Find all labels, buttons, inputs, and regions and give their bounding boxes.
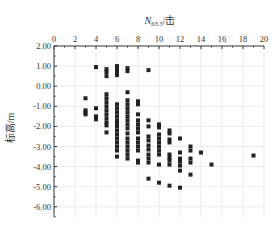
y-tick-label: 1.00 bbox=[36, 61, 51, 71]
x-axis-title-subscript: 63.5 bbox=[151, 20, 163, 27]
data-point bbox=[115, 149, 119, 153]
data-point bbox=[105, 92, 109, 96]
data-point bbox=[126, 102, 130, 106]
x-tick-label: 12 bbox=[176, 34, 185, 44]
data-point bbox=[157, 140, 161, 144]
x-axis-title: N63.5/击 bbox=[144, 15, 176, 27]
data-point bbox=[157, 153, 161, 157]
data-point bbox=[189, 173, 193, 177]
data-point bbox=[126, 110, 130, 114]
data-point bbox=[115, 132, 119, 136]
data-point bbox=[168, 159, 172, 163]
data-point bbox=[126, 131, 130, 135]
y-axis-title: 标高/m bbox=[4, 113, 16, 144]
data-point bbox=[168, 163, 172, 167]
data-point bbox=[105, 123, 109, 127]
x-tick-label: 10 bbox=[155, 34, 164, 44]
data-point bbox=[147, 148, 151, 152]
data-point bbox=[157, 149, 161, 153]
data-point bbox=[147, 153, 151, 157]
data-point bbox=[105, 100, 109, 104]
x-tick-label: 4 bbox=[94, 34, 99, 44]
data-point bbox=[126, 90, 130, 94]
data-point bbox=[189, 161, 193, 165]
data-point bbox=[136, 112, 140, 116]
data-point bbox=[168, 140, 172, 144]
data-point bbox=[189, 157, 193, 161]
data-point bbox=[115, 73, 119, 77]
data-point bbox=[115, 128, 119, 132]
data-point bbox=[94, 117, 98, 121]
data-point bbox=[115, 145, 119, 149]
data-point bbox=[126, 136, 130, 140]
data-point bbox=[126, 122, 130, 126]
data-point bbox=[136, 122, 140, 126]
data-point bbox=[157, 163, 161, 167]
y-tick-label: 2.00 bbox=[36, 41, 51, 51]
data-point bbox=[210, 163, 214, 167]
data-point bbox=[126, 69, 130, 73]
data-point bbox=[115, 155, 119, 159]
y-tick-label: -2.00 bbox=[33, 121, 51, 131]
grid-lines bbox=[54, 46, 264, 217]
data-point bbox=[126, 145, 130, 149]
data-point bbox=[147, 138, 151, 142]
data-point bbox=[189, 145, 193, 149]
x-tick-label: 8 bbox=[136, 34, 140, 44]
data-point bbox=[126, 106, 130, 110]
data-point bbox=[94, 106, 98, 110]
data-point bbox=[136, 145, 140, 149]
data-point bbox=[136, 149, 140, 153]
data-points bbox=[84, 64, 256, 190]
data-point bbox=[105, 74, 109, 78]
data-point bbox=[147, 157, 151, 161]
data-point bbox=[115, 136, 119, 140]
data-point bbox=[136, 126, 140, 130]
data-point bbox=[147, 118, 151, 122]
data-point bbox=[126, 98, 130, 102]
data-point bbox=[115, 124, 119, 128]
data-point bbox=[168, 184, 172, 188]
y-tick-label: -1.00 bbox=[33, 101, 51, 111]
data-point bbox=[157, 145, 161, 149]
data-point bbox=[189, 149, 193, 153]
data-point bbox=[199, 151, 203, 155]
data-point bbox=[126, 114, 130, 118]
x-tick-label: 16 bbox=[218, 34, 227, 44]
y-axis-ticks: 2.001.000.00-1.00-2.00-3.00-4.00-5.00-6.… bbox=[33, 41, 57, 217]
data-point bbox=[105, 104, 109, 108]
data-point bbox=[136, 136, 140, 140]
data-point bbox=[252, 154, 256, 158]
data-point bbox=[126, 153, 130, 157]
data-point bbox=[115, 114, 119, 118]
data-point bbox=[147, 161, 151, 165]
data-point bbox=[105, 116, 109, 120]
y-tick-label: -5.00 bbox=[33, 182, 51, 192]
data-point bbox=[126, 140, 130, 144]
y-tick-label: -6.00 bbox=[33, 202, 51, 212]
y-tick-label: -4.00 bbox=[33, 162, 51, 172]
data-point bbox=[136, 102, 140, 106]
data-point bbox=[136, 118, 140, 122]
data-point bbox=[105, 70, 109, 74]
data-point bbox=[157, 132, 161, 136]
data-point bbox=[105, 96, 109, 100]
data-point bbox=[126, 126, 130, 130]
data-point bbox=[178, 151, 182, 155]
data-point bbox=[147, 177, 151, 181]
y-tick-label: -3.00 bbox=[33, 142, 51, 152]
data-point bbox=[126, 157, 130, 161]
data-point bbox=[147, 124, 151, 128]
data-point bbox=[136, 140, 140, 144]
data-point bbox=[178, 169, 182, 173]
data-point bbox=[94, 65, 98, 69]
data-point bbox=[115, 140, 119, 144]
x-tick-label: 14 bbox=[197, 34, 206, 44]
data-point bbox=[126, 118, 130, 122]
data-point bbox=[157, 125, 161, 129]
data-point bbox=[105, 112, 109, 116]
data-point bbox=[178, 136, 182, 140]
data-point bbox=[126, 149, 130, 153]
x-axis-ticks: 02468101214161820 bbox=[52, 34, 268, 49]
data-point bbox=[136, 130, 140, 134]
